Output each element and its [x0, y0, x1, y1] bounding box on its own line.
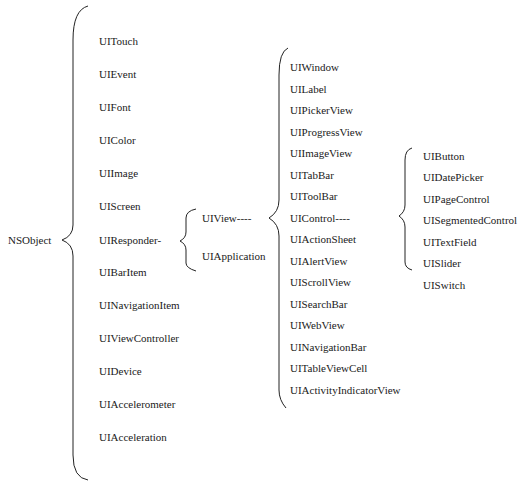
node-uibaritem: UIBarItem: [99, 266, 147, 279]
node-uiacceleration: UIAcceleration: [99, 431, 167, 444]
node-uiimage: UIImage: [99, 167, 138, 180]
node-uisearchbar: UISearchBar: [290, 298, 347, 311]
node-uiscreen: UIScreen: [99, 200, 141, 213]
uiview-brace: [269, 48, 288, 408]
node-uicolor: UIColor: [99, 134, 136, 147]
node-uiwebview: UIWebView: [290, 319, 345, 332]
node-uitableviewcell: UITableViewCell: [290, 362, 367, 375]
node-uiactionsheet: UIActionSheet: [290, 233, 356, 246]
node-uiresponder: UIResponder-: [99, 234, 161, 247]
node-uitouch: UITouch: [99, 35, 138, 48]
root-node-nsobject: NSObject: [8, 234, 51, 247]
node-uidevice: UIDevice: [99, 365, 142, 378]
node-uifont: UIFont: [99, 101, 131, 114]
node-uiscrollview: UIScrollView: [290, 276, 351, 289]
node-uiswitch: UISwitch: [423, 279, 465, 292]
node-uialertview: UIAlertView: [290, 255, 347, 268]
nsobject-brace: [62, 6, 88, 480]
node-uitabbar: UITabBar: [290, 169, 334, 182]
node-uisegmentedcontrol: UISegmentedControl: [423, 214, 517, 227]
node-uibutton: UIButton: [423, 150, 465, 163]
node-uiwindow: UIWindow: [290, 61, 339, 74]
node-uiimageview: UIImageView: [290, 147, 352, 160]
node-uiactivityindicatorview: UIActivityIndicatorView: [290, 384, 401, 397]
node-uiview: UIView----: [202, 212, 251, 225]
uicontrol-brace: [399, 148, 412, 270]
node-uinavigationitem: UINavigationItem: [99, 299, 180, 312]
node-uitextfield: UITextField: [423, 236, 477, 249]
node-uiapplication: UIApplication: [202, 250, 266, 263]
node-uilabel: UILabel: [290, 83, 327, 96]
node-uiprogressview: UIProgressView: [290, 126, 363, 139]
node-uiviewcontroller: UIViewController: [99, 332, 179, 345]
uiresponder-brace: [180, 209, 196, 271]
node-uipickerview: UIPickerView: [290, 104, 353, 117]
node-uicontrol: UIControl----: [290, 212, 350, 225]
node-uiaccelerometer: UIAccelerometer: [99, 398, 175, 411]
node-uipagecontrol: UIPageControl: [423, 193, 490, 206]
node-uislider: UISlider: [423, 257, 461, 270]
node-uidatepicker: UIDatePicker: [423, 171, 483, 184]
node-uievent: UIEvent: [99, 68, 136, 81]
node-uinavigationbar: UINavigationBar: [290, 341, 366, 354]
node-uitoolbar: UIToolBar: [290, 190, 338, 203]
